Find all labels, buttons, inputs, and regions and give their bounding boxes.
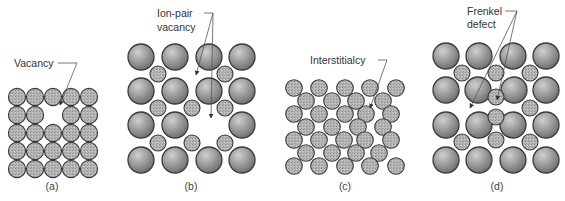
small-ion: [150, 66, 166, 82]
small-ion: [217, 135, 233, 151]
caption-c: (c): [339, 180, 351, 192]
small-ion: [150, 135, 166, 151]
large-ion: [229, 78, 255, 104]
small-ion: [522, 65, 538, 81]
large-ion: [162, 44, 188, 70]
small-ion: [362, 80, 379, 97]
small-ion: [44, 160, 61, 177]
small-ion: [8, 160, 25, 177]
small-ion: [311, 132, 328, 149]
frenkel-label-line2: defect: [467, 18, 496, 30]
small-ion: [44, 124, 61, 141]
small-ion: [62, 88, 79, 105]
large-ion: [466, 43, 492, 69]
small-ion: [62, 160, 79, 177]
small-ion: [184, 100, 200, 116]
small-ion: [286, 158, 303, 175]
small-ion: [8, 124, 25, 141]
small-ion: [488, 89, 504, 105]
small-ion: [62, 142, 79, 159]
small-ion: [388, 80, 405, 97]
interstitialcy-label: Interstitialcy: [310, 54, 366, 66]
large-ion: [229, 112, 255, 138]
large-ion: [533, 112, 559, 138]
large-ion: [533, 43, 559, 69]
small-ion: [383, 132, 400, 149]
small-ion: [311, 106, 328, 123]
small-ion: [26, 160, 43, 177]
small-ion: [184, 135, 200, 151]
small-ion: [44, 142, 61, 159]
small-ion: [348, 145, 365, 162]
panel-d: [433, 43, 559, 173]
large-ion: [196, 147, 222, 173]
small-ion: [286, 80, 303, 97]
small-ion: [298, 93, 315, 110]
caption-b: (b): [185, 180, 198, 192]
ion-pair-label-line1: Ion-pair: [157, 7, 193, 19]
large-ion: [128, 44, 154, 70]
small-ion: [336, 132, 353, 149]
small-ion: [488, 109, 504, 125]
small-ion: [337, 80, 354, 97]
caption-a: (a): [46, 180, 59, 192]
large-ion: [162, 112, 188, 138]
large-ion: [196, 78, 222, 104]
large-ion: [533, 77, 559, 103]
large-ion: [162, 147, 188, 173]
large-ion: [500, 43, 526, 69]
small-ion: [80, 124, 97, 141]
large-ion: [128, 147, 154, 173]
small-ion: [26, 142, 43, 159]
small-ion: [217, 66, 233, 82]
small-ion: [454, 134, 470, 150]
small-ion: [311, 80, 328, 97]
small-ion: [8, 106, 25, 123]
small-ion: [150, 100, 166, 116]
small-ion: [26, 106, 43, 123]
small-ion: [454, 65, 470, 81]
small-ion: [522, 100, 538, 116]
large-ion: [128, 78, 154, 104]
small-ion: [80, 142, 97, 159]
large-ion: [433, 77, 459, 103]
small-ion: [298, 145, 315, 162]
small-ion: [388, 158, 405, 175]
small-ion: [522, 134, 538, 150]
small-ion: [362, 158, 379, 175]
small-ion: [44, 88, 61, 105]
small-ion: [298, 119, 315, 136]
small-ion: [62, 124, 79, 141]
small-ion: [80, 160, 97, 177]
large-ion: [433, 147, 459, 173]
large-ion: [500, 147, 526, 173]
caption-d: (d): [491, 180, 504, 192]
large-ion: [466, 147, 492, 173]
small-ion: [80, 88, 97, 105]
small-ion: [324, 93, 341, 110]
large-ion: [196, 44, 222, 70]
frenkel-label-line1: Frenkel: [467, 5, 502, 17]
large-ion: [501, 77, 527, 103]
small-ion: [26, 88, 43, 105]
panel-a: [8, 88, 97, 177]
small-ion: [324, 145, 341, 162]
small-ion: [26, 124, 43, 141]
defects-diagram: Vacancy (a) Ion-pair vacancy (b) Interst…: [0, 0, 565, 201]
small-ion: [286, 106, 303, 123]
small-ion: [8, 88, 25, 105]
large-ion: [533, 147, 559, 173]
panel-c: [286, 80, 405, 175]
large-ion: [433, 43, 459, 69]
small-ion: [488, 132, 504, 148]
vacancy-label: Vacancy: [14, 57, 54, 69]
large-ion: [128, 112, 154, 138]
large-ion: [162, 78, 188, 104]
small-ion: [337, 106, 354, 123]
small-ion: [62, 106, 79, 123]
small-ion: [217, 100, 233, 116]
large-ion: [229, 44, 255, 70]
small-ion: [337, 158, 354, 175]
panel-b: [128, 44, 255, 173]
small-ion: [311, 158, 328, 175]
